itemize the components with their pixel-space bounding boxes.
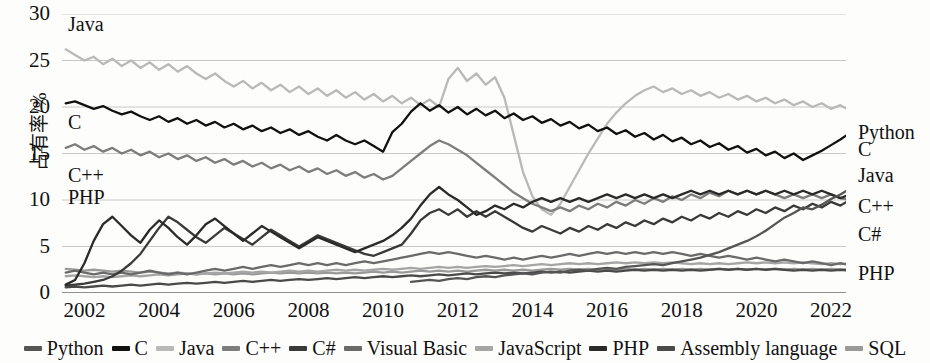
x-tick-2014: 2014 bbox=[497, 300, 567, 321]
legend-item-visual-basic[interactable]: Visual Basic bbox=[344, 338, 467, 358]
y-tick-25: 25 bbox=[0, 50, 50, 71]
legend-item-python[interactable]: Python bbox=[24, 338, 104, 358]
x-tick-2004: 2004 bbox=[124, 300, 194, 321]
legend-label: PHP bbox=[612, 338, 649, 358]
legend-label: Assembly language bbox=[680, 338, 837, 358]
left-annotation-c-: C++ bbox=[68, 165, 104, 185]
left-annotation-c: C bbox=[68, 112, 81, 132]
line-chart-svg bbox=[62, 14, 846, 293]
legend-item-c#[interactable]: C# bbox=[289, 338, 335, 358]
legend-item-c++[interactable]: C++ bbox=[222, 338, 281, 358]
legend-label: Java bbox=[179, 338, 215, 358]
legend-item-c[interactable]: C bbox=[112, 338, 148, 358]
legend-swatch-icon bbox=[344, 346, 362, 351]
legend-label: C# bbox=[312, 338, 335, 358]
x-tick-2020: 2020 bbox=[721, 300, 791, 321]
legend-swatch-icon bbox=[845, 346, 863, 351]
x-tick-2010: 2010 bbox=[348, 300, 418, 321]
right-annotation-c#: C# bbox=[858, 224, 881, 244]
x-tick-2016: 2016 bbox=[572, 300, 642, 321]
series-lines bbox=[66, 49, 846, 287]
x-tick-2018: 2018 bbox=[647, 300, 717, 321]
series-line-c bbox=[66, 101, 846, 227]
left-annotation-java: Java bbox=[68, 14, 104, 34]
right-annotation-c++: C++ bbox=[858, 196, 894, 216]
chart-root: 占有率/% 302520151050 200220042006200820102… bbox=[0, 0, 930, 363]
legend-item-java[interactable]: Java bbox=[156, 338, 215, 358]
gridlines bbox=[62, 14, 846, 293]
legend-swatch-icon bbox=[475, 346, 493, 351]
left-annotation-php: PHP bbox=[68, 187, 105, 207]
legend-item-php[interactable]: PHP bbox=[589, 338, 649, 358]
legend-label: C bbox=[135, 338, 148, 358]
x-tick-2008: 2008 bbox=[273, 300, 343, 321]
legend-item-javascript[interactable]: JavaScript bbox=[475, 338, 581, 358]
legend-item-sql[interactable]: SQL bbox=[845, 338, 906, 358]
legend-swatch-icon bbox=[289, 346, 307, 351]
legend-swatch-icon bbox=[657, 346, 675, 351]
y-tick-20: 20 bbox=[0, 96, 50, 117]
legend-label: Python bbox=[47, 338, 104, 358]
legend-label: C++ bbox=[245, 338, 281, 358]
right-annotation-php: PHP bbox=[858, 263, 895, 283]
y-tick-10: 10 bbox=[0, 189, 50, 210]
right-annotation-java: Java bbox=[858, 165, 894, 185]
chart-legend: PythonCJavaC++C#Visual BasicJavaScriptPH… bbox=[0, 333, 930, 363]
y-tick-30: 30 bbox=[0, 3, 50, 24]
y-axis-title: 占有率/% bbox=[30, 77, 49, 187]
legend-item-assembly-language[interactable]: Assembly language bbox=[657, 338, 837, 358]
legend-swatch-icon bbox=[222, 346, 240, 351]
x-tick-2012: 2012 bbox=[423, 300, 493, 321]
legend-label: Visual Basic bbox=[367, 338, 467, 358]
y-tick-0: 0 bbox=[0, 282, 50, 303]
legend-swatch-icon bbox=[589, 346, 607, 351]
x-tick-2002: 2002 bbox=[49, 300, 119, 321]
x-tick-2006: 2006 bbox=[199, 300, 269, 321]
legend-label: JavaScript bbox=[498, 338, 581, 358]
x-tick-2022: 2022 bbox=[796, 300, 866, 321]
plot-area bbox=[62, 14, 846, 293]
series-line-c- bbox=[66, 140, 846, 244]
y-tick-15: 15 bbox=[0, 143, 50, 164]
right-annotation-c: C bbox=[858, 139, 871, 159]
legend-swatch-icon bbox=[156, 346, 174, 351]
y-tick-5: 5 bbox=[0, 236, 50, 257]
legend-swatch-icon bbox=[24, 346, 42, 351]
legend-label: SQL bbox=[868, 338, 906, 358]
legend-swatch-icon bbox=[112, 346, 130, 351]
